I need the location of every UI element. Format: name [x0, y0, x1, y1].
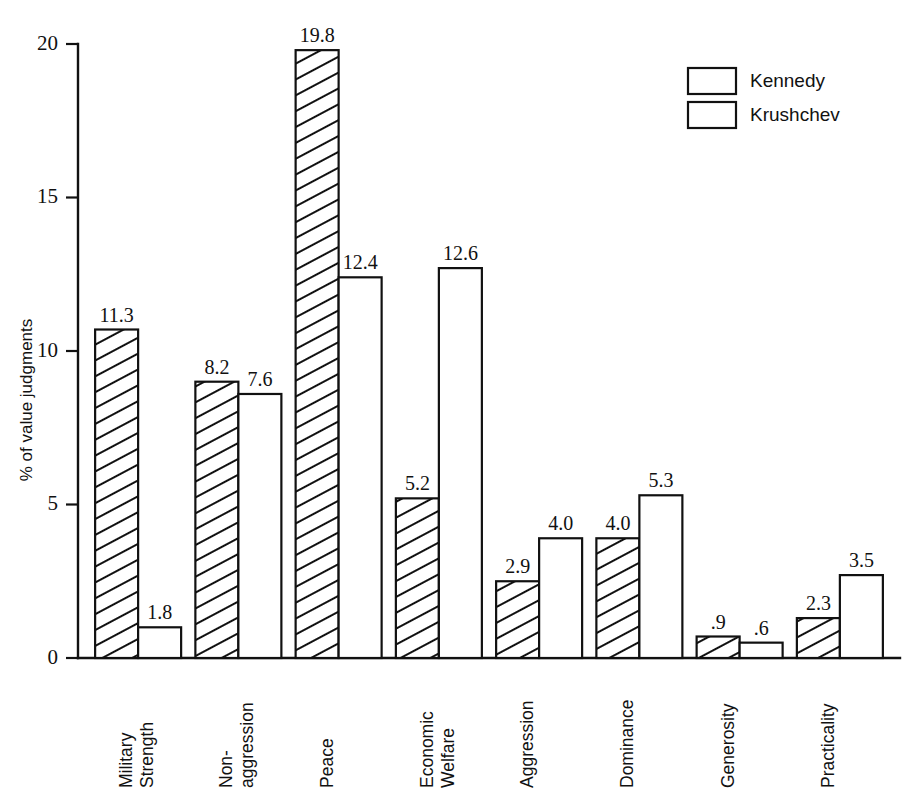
bar-krushchev-non-aggression	[238, 394, 281, 658]
bar-krushchev-economic-welfare	[439, 268, 482, 658]
y-axis-title-text: % of value judgments	[17, 319, 36, 482]
bar-value-label: 7.6	[247, 368, 272, 390]
legend-label-kennedy: Kennedy	[750, 70, 826, 91]
y-tick-label: 20	[37, 31, 58, 55]
bar-kennedy-military-strength	[95, 330, 138, 658]
bar-krushchev-peace	[339, 277, 382, 658]
bar-value-label: 3.5	[849, 549, 874, 571]
y-tick-label: 10	[37, 338, 58, 362]
x-category-label: Dominance	[617, 699, 637, 788]
bar-value-label: .6	[754, 617, 769, 639]
bar-value-label: 5.3	[648, 469, 673, 491]
bar-krushchev-practicality	[840, 575, 883, 658]
legend-swatch-kennedy	[688, 68, 736, 94]
chart-legend: KennedyKrushchev	[688, 68, 840, 128]
legend-swatch-krushchev	[688, 102, 736, 128]
bar-value-label: 11.3	[99, 304, 133, 326]
bar-krushchev-aggression	[539, 538, 582, 658]
y-tick-label: 5	[48, 491, 59, 515]
category-labels-group: MilitaryStrengthNon-aggressionPeaceEcono…	[116, 699, 838, 788]
bar-value-label: 4.0	[605, 512, 630, 534]
x-category-label: Peace	[317, 738, 337, 788]
chart-canvas: 05101520 % of value judgments 11.31.88.2…	[0, 0, 914, 800]
bar-kennedy-peace	[296, 50, 339, 658]
bar-krushchev-generosity	[740, 643, 783, 658]
bar-krushchev-military-strength	[138, 627, 181, 658]
bar-value-label: 12.4	[343, 251, 378, 273]
bar-kennedy-dominance	[596, 538, 639, 658]
bar-krushchev-dominance	[639, 495, 682, 658]
bar-value-label: 8.2	[204, 356, 229, 378]
x-category-label: Non-	[216, 750, 236, 788]
bar-value-label: 19.8	[300, 24, 335, 46]
x-category-label: Aggression	[517, 700, 537, 788]
y-axis-title: % of value judgments	[17, 319, 36, 482]
x-category-label: Military	[116, 732, 136, 788]
x-category-label: Economic	[417, 711, 437, 788]
bar-kennedy-generosity	[697, 637, 740, 658]
bar-kennedy-aggression	[496, 581, 539, 658]
bar-value-label: 4.0	[548, 512, 573, 534]
x-category-label: Strength	[137, 722, 157, 788]
x-category-label: Generosity	[718, 703, 738, 788]
bar-kennedy-economic-welfare	[396, 498, 439, 658]
legend-label-krushchev: Krushchev	[750, 104, 840, 125]
x-category-label: Welfare	[438, 728, 458, 788]
bar-chart-figure: 05101520 % of value judgments 11.31.88.2…	[0, 0, 914, 800]
y-tick-label: 0	[48, 645, 59, 669]
y-tick-label: 15	[37, 184, 58, 208]
bar-value-label: 5.2	[405, 472, 430, 494]
x-category-label: Practicality	[818, 703, 838, 788]
bars-group	[95, 50, 883, 658]
y-axis: 05101520	[37, 31, 78, 669]
x-category-label: aggression	[237, 702, 257, 788]
bar-kennedy-non-aggression	[195, 382, 238, 658]
bar-value-label: 2.3	[806, 592, 831, 614]
bar-value-label: 1.8	[147, 601, 172, 623]
bar-value-label: 2.9	[505, 555, 530, 577]
bar-value-label: .9	[711, 611, 726, 633]
bar-kennedy-practicality	[797, 618, 840, 658]
y-tick-group: 05101520	[37, 31, 78, 669]
bar-value-label: 12.6	[443, 242, 478, 264]
